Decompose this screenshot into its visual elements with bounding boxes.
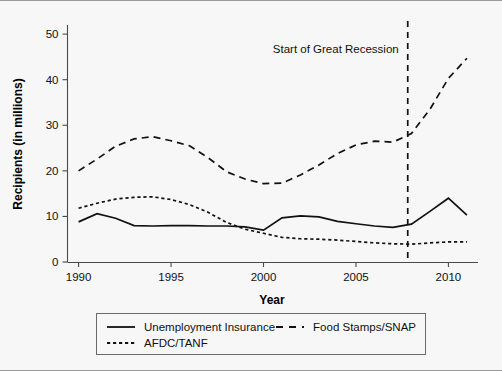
legend-swatch-long-dash (275, 321, 305, 333)
y-axis-ticks: 01020304050 (46, 28, 68, 268)
legend-swatch-short-dash (106, 337, 136, 349)
x-tick-label: 1995 (158, 271, 184, 283)
y-tick-label: 50 (46, 28, 59, 40)
legend-row-2: AFDC/TANF (106, 335, 416, 351)
legend-entry-afdc-tanf: AFDC/TANF (106, 337, 310, 349)
x-axis-title: Year (259, 293, 285, 307)
chart-figure: 01020304050 19901995200020052010 Recipie… (0, 0, 502, 371)
y-tick-label: 30 (46, 119, 59, 131)
y-tick-label: 40 (46, 74, 59, 86)
x-tick-label: 2005 (343, 271, 369, 283)
legend-label-unemployment-insurance: Unemployment Insurance (144, 321, 275, 333)
x-axis-ticks: 19901995200020052010 (66, 262, 461, 283)
legend-entry-unemployment-insurance: Unemployment Insurance (106, 321, 275, 333)
legend-entry-food-stamps-snap: Food Stamps/SNAP (275, 321, 416, 333)
x-tick-label: 2000 (251, 271, 277, 283)
series-line-food-stamps-snap (79, 58, 467, 183)
y-tick-label: 20 (46, 165, 59, 177)
series-line-afdc-tanf (79, 197, 467, 244)
legend-label-food-stamps-snap: Food Stamps/SNAP (313, 321, 416, 333)
x-tick-label: 1990 (66, 271, 92, 283)
legend-swatch-solid (106, 321, 136, 333)
y-axis-title: Recipients (in millions) (11, 78, 25, 209)
x-tick-label: 2010 (436, 271, 462, 283)
y-tick-label: 0 (52, 256, 58, 268)
legend-label-afdc-tanf: AFDC/TANF (144, 337, 208, 349)
legend-row-1: Unemployment Insurance Food Stamps/SNAP (106, 319, 416, 335)
recession-annotation-label: Start of Great Recession (273, 43, 399, 55)
chart-legend: Unemployment Insurance Food Stamps/SNAP … (96, 313, 426, 355)
y-tick-label: 10 (46, 210, 59, 222)
series-line-unemployment-insurance (79, 198, 467, 230)
